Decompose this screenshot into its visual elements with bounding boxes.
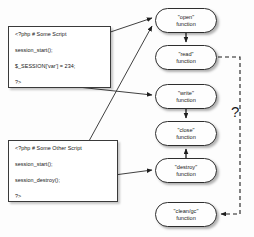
node-cleangc-function: "clean/gc" function	[155, 202, 217, 227]
node-write-function: "write" function	[155, 84, 217, 109]
script1-line-2: session_start();	[15, 48, 105, 53]
question-mark-annotation: ?	[231, 104, 239, 119]
script2-line-2: session_start();	[15, 162, 112, 167]
diagram-canvas: <?php # Some Script session_start(); $_S…	[0, 0, 254, 237]
script2-line-1: <?php # Some Other Script	[15, 146, 112, 151]
node-open-label-2: function	[176, 21, 196, 27]
script2-line-3: session_destroy();	[15, 178, 112, 183]
script2-line-4: ?>	[15, 194, 112, 199]
node-read-label-2: function	[176, 58, 196, 64]
script-box-some-other-script: <?php # Some Other Script session_start(…	[8, 140, 118, 202]
node-close-function: "close" function	[155, 121, 217, 146]
edge-read-to-cleangc-dashed	[218, 57, 240, 214]
node-destroy-function: "destroy" function	[155, 158, 217, 183]
script1-line-4: ?>	[15, 80, 105, 85]
node-cleangc-label-2: function	[176, 215, 196, 221]
node-destroy-label-2: function	[176, 171, 196, 177]
node-write-label-2: function	[176, 97, 196, 103]
script1-line-3: $_SESSION['var'] = 234;	[15, 64, 105, 69]
node-open-function: "open" function	[155, 8, 217, 33]
script-box-some-script: <?php # Some Script session_start(); $_S…	[8, 26, 111, 88]
node-read-function: "read" function	[155, 45, 217, 70]
script1-line-1: <?php # Some Script	[15, 32, 105, 37]
node-close-label-2: function	[176, 134, 196, 140]
